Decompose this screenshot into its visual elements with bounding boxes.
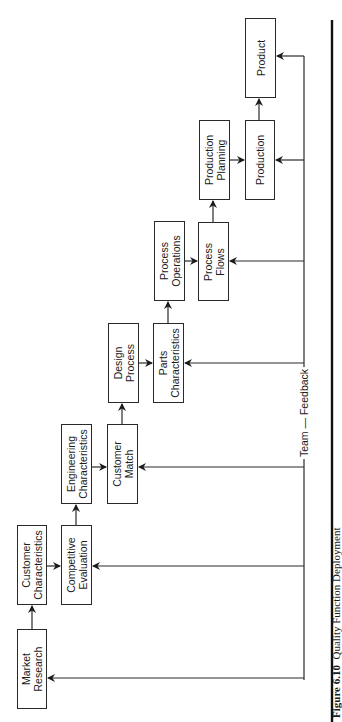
box-process-operations: Process Operations bbox=[154, 221, 185, 301]
box-label: Product bbox=[255, 40, 267, 76]
box-label: Process Flows bbox=[202, 243, 226, 281]
box-production: Production bbox=[245, 120, 275, 200]
box-label: Competitive Evaluation bbox=[65, 537, 89, 592]
box-engineering-characteristics: Engineering Characteristics bbox=[61, 424, 92, 504]
box-market-research: Market Research bbox=[17, 629, 47, 709]
box-label: Parts Characteristics bbox=[157, 328, 181, 397]
box-competitive-evaluation: Competitive Evaluation bbox=[61, 525, 92, 605]
box-label: Customer Characteristics bbox=[20, 530, 44, 599]
figure-title: Quality Function Deployment bbox=[330, 528, 342, 660]
figure-number: Figure 6.10 bbox=[330, 665, 342, 718]
box-process-flows: Process Flows bbox=[198, 222, 229, 301]
box-label: Production Planning bbox=[203, 135, 227, 185]
box-label: Customer Match bbox=[111, 441, 135, 487]
box-label: Engineering Characteristics bbox=[65, 429, 89, 498]
box-label: Market Research bbox=[20, 647, 44, 692]
figure-caption: Figure 6.10 Quality Function Deployment bbox=[330, 528, 342, 718]
box-production-planning: Production Planning bbox=[199, 120, 230, 200]
team-feedback-label: Team — Feedback bbox=[298, 367, 310, 459]
box-label: Design Process bbox=[112, 344, 136, 382]
box-customer-characteristics: Customer Characteristics bbox=[17, 525, 47, 605]
box-label: Production bbox=[254, 135, 266, 185]
box-design-process: Design Process bbox=[108, 323, 139, 403]
box-product: Product bbox=[245, 18, 276, 98]
box-parts-characteristics: Parts Characteristics bbox=[153, 323, 184, 403]
box-label: Process Operations bbox=[158, 235, 182, 286]
box-customer-match: Customer Match bbox=[107, 424, 138, 504]
